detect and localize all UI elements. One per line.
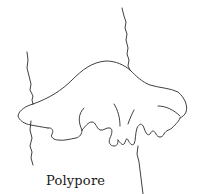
- fungus-gill-fold-left: [79, 108, 84, 130]
- tree-trunk-left-upper-line: [27, 52, 33, 104]
- fungus-underside-frill-left: [48, 128, 82, 140]
- fungus-underside-frill-middle: [82, 122, 118, 146]
- tree-trunk-right-lower-line: [137, 146, 143, 194]
- fungus-cap-right-inner-curve: [158, 106, 180, 116]
- fungus-cap-top-outline: [33, 61, 187, 118]
- tree-trunk-left-lower-line: [30, 121, 33, 165]
- fungus-gill-fold-middle: [114, 104, 120, 126]
- fungus-gill-fold-right: [128, 110, 134, 124]
- fungus-cap-left-lobe-outline: [18, 104, 48, 128]
- figure-caption: Polypore: [46, 173, 105, 188]
- fungus-underside-frill-right: [118, 118, 180, 145]
- polypore-illustration: [0, 0, 201, 194]
- tree-trunk-right-upper-line: [122, 8, 130, 70]
